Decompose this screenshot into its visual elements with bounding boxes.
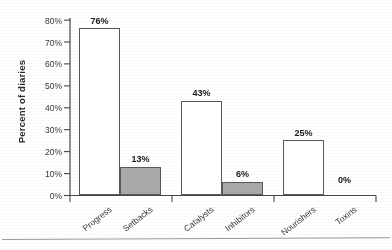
bar-inhibitors [222,182,263,195]
bar-progress [79,28,120,195]
bar-nourishers [283,140,324,195]
bar-value-label-setbacks: 13% [120,155,161,164]
bar-value-label-inhibitors: 6% [222,170,263,179]
bar-value-label-catalysts: 43% [181,89,222,98]
bar-catalysts [181,101,222,195]
bar-setbacks [120,167,161,196]
bar-value-label-nourishers: 25% [283,129,324,138]
bar-chart: Percent of diaries 0% 10% 20% 30% 40% 50… [0,0,392,250]
bar-value-label-progress: 76% [79,17,120,26]
bar-value-label-toxins: 0% [324,176,365,185]
